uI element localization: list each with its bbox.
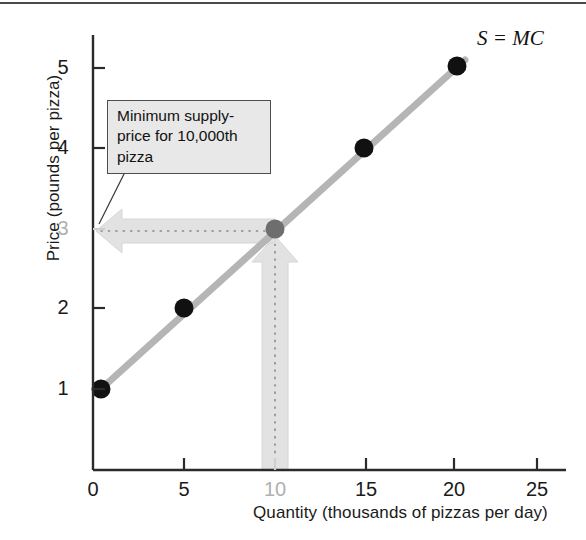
- x-tick-label-20: 20: [437, 478, 471, 501]
- annotation-leader-line: [99, 166, 128, 224]
- x-tick-label-15: 15: [349, 478, 383, 501]
- data-point-marker-highlighted: [266, 220, 285, 239]
- y-axis-title: Price (pounds per pizza): [44, 18, 64, 318]
- y-axis: [93, 35, 105, 470]
- data-point-marker: [175, 299, 194, 318]
- x-axis: [93, 458, 566, 470]
- x-tick-label-5: 5: [171, 478, 197, 501]
- data-point-marker: [355, 139, 374, 158]
- supply-curve-figure: Minimum supply- price for 10,000th pizza…: [0, 0, 586, 540]
- minimum-supply-price-annotation: Minimum supply- price for 10,000th pizza: [107, 100, 271, 174]
- series-label-s-equals-mc: S = MC: [477, 26, 544, 51]
- y-tick-label-1: 1: [50, 377, 76, 400]
- x-tick-label-10: 10: [258, 478, 292, 501]
- x-axis-title: Quantity (thousands of pizzas per day): [253, 503, 548, 523]
- annotation-line-2: price for 10,000th: [117, 126, 263, 146]
- vertical-guide-arrow: [252, 236, 298, 470]
- data-point-marker: [448, 57, 467, 76]
- horizontal-guide-arrow: [96, 209, 275, 253]
- x-tick-label-0: 0: [80, 478, 106, 501]
- annotation-line-3: pizza: [117, 147, 263, 167]
- annotation-line-1: Minimum supply-: [117, 106, 263, 126]
- chart-canvas: [0, 0, 586, 540]
- x-tick-label-25: 25: [520, 478, 554, 501]
